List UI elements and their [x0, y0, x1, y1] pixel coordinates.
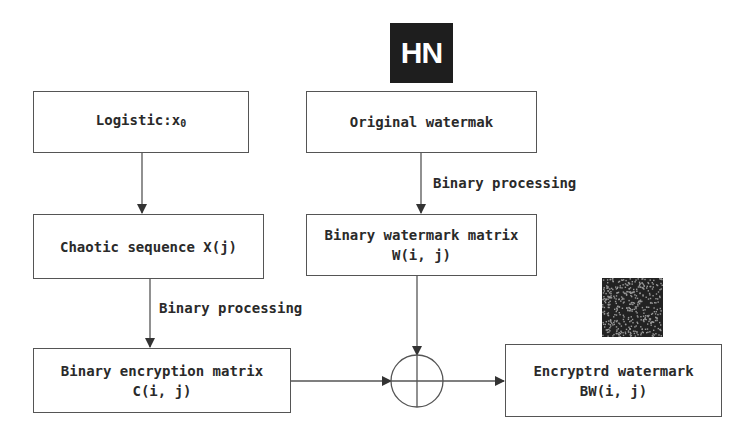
- chaotic-sequence-label: Chaotic sequence X(j): [60, 237, 237, 257]
- binary-processing-label-right: Binary processing: [433, 175, 576, 191]
- chaotic-sequence-node: Chaotic sequence X(j): [33, 214, 264, 279]
- binary-watermark-matrix-line2: W(i, j): [392, 245, 451, 265]
- binary-processing-label-left: Binary processing: [159, 300, 302, 316]
- original-watermark-node: Original watermak: [306, 91, 537, 153]
- logistic-node: Logistic:x0: [33, 91, 249, 153]
- original-watermark-image: HN: [390, 23, 453, 83]
- xor-operator-icon: [391, 355, 443, 407]
- encrypted-watermark-line2: BW(i, j): [580, 381, 647, 401]
- encrypted-watermark-image: [602, 278, 663, 337]
- binary-encryption-matrix-line1: Binary encryption matrix: [61, 361, 263, 381]
- binary-watermark-matrix-node: Binary watermark matrix W(i, j): [306, 214, 537, 276]
- encrypted-watermark-node: Encryptrd watermark BW(i, j): [505, 344, 722, 417]
- binary-encryption-matrix-node: Binary encryption matrix C(i, j): [33, 348, 291, 413]
- encrypted-watermark-line1: Encryptrd watermark: [533, 361, 693, 381]
- logistic-label: Logistic:x0: [96, 110, 186, 134]
- binary-encryption-matrix-line2: C(i, j): [132, 381, 191, 401]
- original-watermark-label: Original watermak: [350, 112, 493, 132]
- binary-watermark-matrix-line1: Binary watermark matrix: [325, 225, 519, 245]
